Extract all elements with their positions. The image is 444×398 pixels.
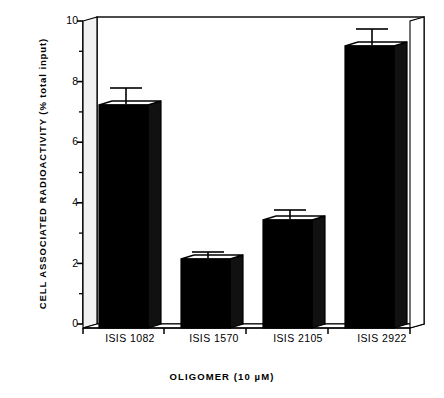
bar-isis-2922: [345, 42, 407, 328]
x-tick-label-isis-1082: ISIS 1082: [88, 332, 172, 348]
x-axis-tick-labels: ISIS 1082 ISIS 1570 ISIS 2105 ISIS 2922: [88, 332, 424, 348]
x-axis-title: OLIGOMER (10 µM): [0, 371, 444, 382]
bar-isis-1570: [181, 255, 243, 328]
x-tick-label-isis-1570: ISIS 1570: [172, 332, 256, 348]
x-tick-label-isis-2922: ISIS 2922: [340, 332, 424, 348]
bar-isis-1082: [99, 101, 161, 328]
bar-isis-2105: [263, 216, 325, 328]
bar-chart-figure: CELL ASSOCIATED RADIOACTIVITY (% total i…: [0, 0, 444, 398]
x-tick-label-isis-2105: ISIS 2105: [256, 332, 340, 348]
